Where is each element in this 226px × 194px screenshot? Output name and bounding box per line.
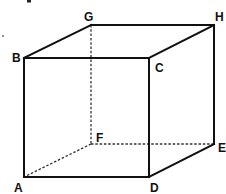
vertex-label-h: H — [215, 10, 224, 24]
edge-bg — [24, 25, 91, 58]
edge-hc — [149, 25, 214, 58]
vertex-label-d: D — [150, 181, 159, 194]
cropped-text-fragment — [27, 0, 31, 3]
vertex-label-e: E — [218, 141, 226, 155]
vertex-label-b: B — [12, 51, 21, 65]
cube-diagram: G H B C F E A D — [0, 0, 226, 194]
cropped-mark-fragment — [2, 35, 4, 37]
vertex-label-f: F — [96, 131, 103, 145]
edge-ed — [149, 144, 214, 177]
vertex-label-c: C — [155, 61, 164, 75]
edge-fa-hidden — [24, 144, 91, 177]
vertex-label-g: G — [84, 10, 93, 24]
vertex-label-a: A — [14, 181, 23, 194]
